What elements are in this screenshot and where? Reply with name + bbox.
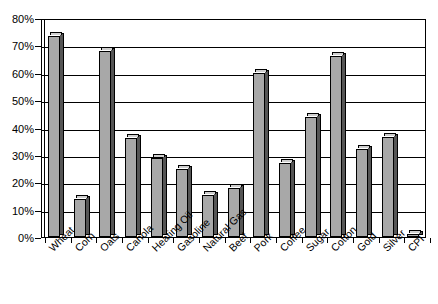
bar-top-face <box>204 191 216 194</box>
bar-side-face <box>111 48 115 235</box>
bar-group[interactable] <box>48 20 64 237</box>
bar[interactable] <box>330 56 342 237</box>
bar[interactable] <box>356 149 368 237</box>
x-axis-tick-mark <box>250 238 251 243</box>
x-axis-tick-mark <box>225 238 226 243</box>
bar-top-face <box>409 230 421 233</box>
bar[interactable] <box>151 158 163 237</box>
bar-side-face <box>163 155 167 235</box>
bar-top-face <box>153 154 165 157</box>
bar-side-face <box>188 166 192 235</box>
bar-top-face <box>50 32 62 35</box>
bar-group[interactable] <box>228 20 244 237</box>
bar-top-face <box>358 145 370 148</box>
bar-side-face <box>291 160 295 235</box>
y-axis-tick-mark <box>35 238 41 239</box>
bar[interactable] <box>253 73 265 237</box>
bar-group[interactable] <box>382 20 398 237</box>
bar-side-face <box>368 146 372 235</box>
bar-chart: 0%10%20%30%40%50%60%70%80% WheatCornOats… <box>0 0 438 304</box>
bar-side-face <box>265 70 269 235</box>
bar[interactable] <box>48 36 60 237</box>
x-axis-tick-mark <box>96 238 97 243</box>
x-axis-tick-mark <box>276 238 277 243</box>
bar-group[interactable] <box>151 20 167 237</box>
bar-group[interactable] <box>279 20 295 237</box>
bar-top-face <box>255 69 267 72</box>
bar-side-face <box>60 33 64 235</box>
bar-group[interactable] <box>176 20 192 237</box>
bar-top-face <box>178 165 190 168</box>
bar-top-face <box>281 159 293 162</box>
y-axis-ticks <box>0 19 41 238</box>
bar-top-face <box>127 134 139 137</box>
x-axis-tick-mark <box>122 238 123 243</box>
bar[interactable] <box>382 137 394 237</box>
x-axis-tick-mark <box>353 238 354 243</box>
bar-group[interactable] <box>202 20 218 237</box>
bar-group[interactable] <box>253 20 269 237</box>
bar[interactable] <box>279 163 291 237</box>
bar-top-face <box>101 47 113 50</box>
bar-top-face <box>332 52 344 55</box>
bar-group[interactable] <box>99 20 115 237</box>
bar-group[interactable] <box>125 20 141 237</box>
x-axis-tick-mark <box>379 238 380 243</box>
bar-group[interactable] <box>305 20 321 237</box>
bar-side-face <box>342 53 346 235</box>
bar[interactable] <box>305 117 317 237</box>
bar-side-face <box>317 114 321 235</box>
bar[interactable] <box>125 138 137 237</box>
bar-top-face <box>76 195 88 198</box>
x-axis-tick-mark <box>302 238 303 243</box>
x-axis-tick-mark <box>404 238 405 243</box>
bar-side-face <box>394 134 398 235</box>
x-axis-tick-mark <box>430 238 431 243</box>
bar-group[interactable] <box>74 20 90 237</box>
x-axis-tick-mark <box>327 238 328 243</box>
bar-top-face <box>307 113 319 116</box>
plot-area <box>41 19 426 238</box>
x-axis-tick-mark <box>173 238 174 243</box>
y-axis-inner-line <box>44 19 45 238</box>
bar-group[interactable] <box>407 20 423 237</box>
x-axis-tick-mark <box>71 238 72 243</box>
x-axis-tick-mark <box>45 238 46 243</box>
x-axis-tick-mark <box>199 238 200 243</box>
bar-group[interactable] <box>330 20 346 237</box>
bar-group[interactable] <box>356 20 372 237</box>
bar[interactable] <box>99 51 111 237</box>
bar-side-face <box>137 135 141 235</box>
x-axis-tick-mark <box>148 238 149 243</box>
bar-top-face <box>384 133 396 136</box>
bar-top-face <box>230 184 242 187</box>
